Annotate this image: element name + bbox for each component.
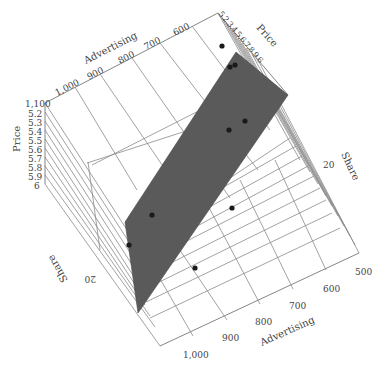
data-point <box>242 118 247 123</box>
regression-plane <box>125 52 288 313</box>
top-axis-tick: 900 <box>85 65 105 82</box>
top-axis-tick: 800 <box>116 49 136 66</box>
price-tick: 1,100 <box>25 99 51 109</box>
right-share-axis: 20 Share <box>323 150 362 182</box>
top-axis-tick: 700 <box>142 35 162 52</box>
bottom-axis-tick: 1,000 <box>183 350 209 360</box>
data-point <box>232 62 237 67</box>
left-share-axis: 20 Share <box>45 253 96 285</box>
3d-scatter-chart: Advertising 1,000 900 800 700 600 Price … <box>0 0 381 369</box>
bottom-axis-tick: 900 <box>222 333 239 343</box>
top-axis-tick: 1,000 <box>53 77 81 98</box>
top-axis-tick: 600 <box>171 21 191 38</box>
top-price-title: Price <box>255 22 281 49</box>
data-point <box>226 127 231 132</box>
left-price-title: Price <box>11 126 22 152</box>
bottom-axis-tick: 600 <box>323 284 340 294</box>
bottom-axis-tick: 700 <box>289 301 306 311</box>
data-point <box>192 265 197 270</box>
share-title-right: Share <box>339 150 362 182</box>
share-tick-left: 20 <box>84 274 96 284</box>
data-point <box>227 64 232 69</box>
share-tick-right: 20 <box>323 160 335 170</box>
price-tick: 6 <box>34 181 40 191</box>
bottom-axis-tick: 800 <box>255 317 272 327</box>
data-point <box>219 43 224 48</box>
top-advertising-axis: Advertising 1,000 900 800 700 600 <box>53 21 191 98</box>
data-point <box>126 242 131 247</box>
bottom-advertising-axis: 500 600 700 800 900 1,000 Advertising <box>183 267 372 360</box>
data-point <box>149 212 154 217</box>
chart-canvas: Advertising 1,000 900 800 700 600 Price … <box>0 0 381 369</box>
bottom-axis-tick: 500 <box>355 267 372 277</box>
share-title-left: Share <box>45 253 70 285</box>
data-point <box>229 205 234 210</box>
